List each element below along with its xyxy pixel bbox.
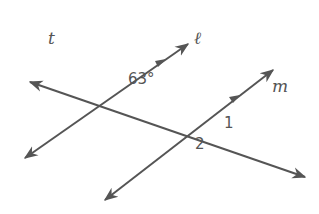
- line-t: [30, 82, 305, 177]
- diagram-canvas: t ℓ m 63° 1 2: [0, 0, 319, 214]
- line-m: [105, 70, 273, 200]
- label-l: ℓ: [194, 30, 201, 47]
- label-m: m: [272, 78, 288, 95]
- label-t: t: [48, 30, 55, 47]
- angle-63-label: 63°: [128, 72, 155, 87]
- angle-2-label: 2: [195, 137, 205, 152]
- angle-1-label: 1: [224, 116, 234, 131]
